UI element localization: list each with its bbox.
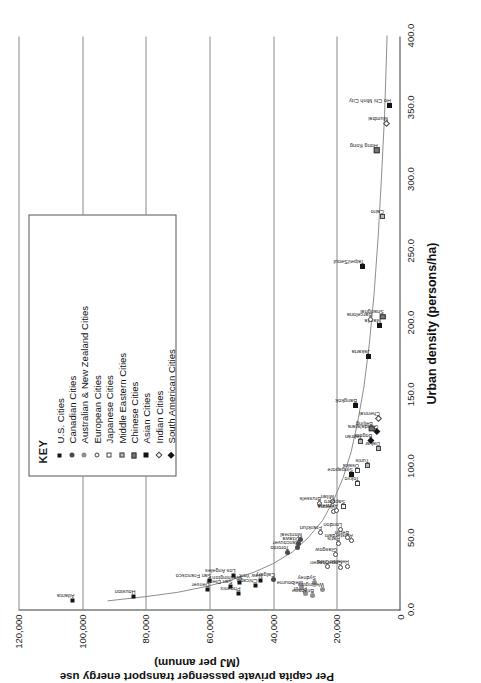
data-point[interactable]: Tokyo bbox=[355, 480, 360, 485]
data-point[interactable]: Ho Chi Minh City bbox=[386, 103, 391, 108]
legend-item-u-s-cities[interactable]: U.S. Cities bbox=[53, 225, 65, 463]
data-point[interactable]: Atlanta bbox=[70, 598, 74, 602]
data-point-label: Tunis bbox=[355, 458, 368, 464]
x-axis-tick-label: 200.0 bbox=[404, 310, 415, 334]
data-point-label: Taipei/Seoul bbox=[333, 259, 364, 265]
data-point[interactable]: Cairo bbox=[380, 213, 385, 218]
data-point[interactable]: Paris bbox=[335, 541, 340, 546]
data-point-label: Helsinki bbox=[329, 558, 349, 564]
data-point[interactable]: Barcelona bbox=[367, 317, 372, 322]
legend-item-australian-new-zealand-cities[interactable]: Australian & New Zealand Cities bbox=[78, 225, 90, 463]
data-point-label: Atlanta bbox=[57, 592, 74, 598]
legend-marker-icon bbox=[57, 447, 61, 463]
legend-item-asian-cities[interactable]: Asian Cities bbox=[140, 225, 152, 463]
data-point-label: Bogota bbox=[354, 432, 372, 438]
data-point[interactable]: Berlin bbox=[345, 535, 350, 540]
data-point[interactable]: Taipei/Seoul bbox=[359, 264, 364, 269]
data-point[interactable]: Chicago bbox=[253, 583, 257, 587]
data-point-label: Beijing bbox=[356, 421, 373, 427]
data-point[interactable]: Bangkok bbox=[353, 403, 358, 408]
legend-item-indian-cities[interactable]: Indian Cities bbox=[152, 225, 164, 463]
data-point[interactable]: San Diego bbox=[228, 584, 232, 588]
x-axis-tick-label: 300.0 bbox=[404, 167, 415, 191]
legend-item-european-cities[interactable]: European Cities bbox=[90, 225, 102, 463]
data-point[interactable]: Sapporo bbox=[340, 503, 345, 508]
data-point[interactable]: Toronto bbox=[284, 549, 289, 554]
data-point[interactable]: Helsinki bbox=[345, 563, 350, 568]
data-point-label: Calgary bbox=[255, 571, 274, 577]
data-point[interactable]: Osaka bbox=[355, 467, 360, 472]
data-point-label: Houston bbox=[114, 588, 135, 594]
data-point[interactable]: Tunis bbox=[364, 463, 369, 468]
data-point-label: Paris bbox=[327, 536, 340, 542]
legend-item-south-american-cities[interactable]: South American Cities bbox=[165, 225, 177, 463]
data-point[interactable]: Wellington bbox=[320, 586, 325, 591]
data-point-label: Barcelona bbox=[346, 312, 371, 318]
data-point[interactable]: Mumbai bbox=[383, 120, 388, 125]
data-point[interactable]: New York bbox=[258, 578, 262, 582]
y-axis-tick-label: 100,000 bbox=[76, 614, 87, 648]
y-axis-tick-label: 40,000 bbox=[267, 614, 278, 643]
legend-item-japanese-cities[interactable]: Japanese Cities bbox=[103, 225, 115, 463]
data-point[interactable]: Manila bbox=[377, 322, 382, 327]
legend-marker-icon bbox=[81, 447, 86, 463]
data-point-label: Hong Kong bbox=[350, 143, 378, 149]
x-axis-tick-label: 350.0 bbox=[404, 95, 415, 119]
data-point[interactable]: Phoenix bbox=[236, 591, 240, 595]
data-point[interactable]: Beijing bbox=[369, 425, 375, 431]
x-axis-tick-label: 100.0 bbox=[404, 454, 415, 478]
data-point[interactable]: Montreal bbox=[297, 536, 302, 541]
data-point[interactable]: Frankfurt bbox=[318, 529, 323, 534]
data-point[interactable]: Singapore bbox=[348, 472, 353, 477]
data-point[interactable]: Hong Kong bbox=[373, 147, 379, 153]
legend-label: European Cities bbox=[91, 375, 102, 443]
legend-label: Canadian Cities bbox=[66, 375, 77, 443]
x-axis-tick-label: 250.0 bbox=[404, 238, 415, 262]
data-point[interactable]: Calgary bbox=[270, 576, 275, 581]
data-point-marker bbox=[70, 598, 74, 602]
legend-label: Japanese Cities bbox=[103, 375, 114, 443]
data-point[interactable]: Copenhagen bbox=[337, 565, 342, 570]
data-point-label: Jakarta bbox=[351, 349, 369, 355]
data-point[interactable]: Jakarta bbox=[366, 354, 371, 359]
data-point-marker bbox=[236, 591, 240, 595]
data-point-label: Mumbai bbox=[367, 115, 387, 121]
data-point[interactable]: Tehran bbox=[358, 439, 363, 444]
y-axis-tick-label: 120,000 bbox=[13, 614, 24, 648]
data-point-label: Frankfurt bbox=[299, 524, 321, 530]
data-point-label: Bangkok bbox=[335, 398, 357, 404]
x-axis-label: Urban density (persons/ha) bbox=[424, 36, 438, 610]
legend-item-chinese-cities[interactable]: Chinese Cities bbox=[127, 225, 139, 463]
y-axis-tick-label: 60,000 bbox=[204, 614, 215, 643]
legend-marker-icon bbox=[143, 447, 148, 463]
data-point-label: London bbox=[322, 521, 341, 527]
data-point-label: Cairo bbox=[371, 208, 384, 214]
data-point[interactable]: Denver bbox=[205, 587, 209, 591]
data-point-marker bbox=[205, 587, 209, 591]
legend-label: Asian Cities bbox=[140, 392, 151, 443]
gridline bbox=[18, 36, 19, 609]
legend-marker-icon bbox=[156, 447, 161, 463]
data-point[interactable]: Antwerp bbox=[334, 508, 339, 513]
gridline bbox=[273, 36, 274, 609]
data-point[interactable]: Brisbane bbox=[310, 592, 315, 597]
data-point[interactable]: Houston bbox=[131, 594, 135, 598]
y-axis-tick-label: 20,000 bbox=[331, 614, 342, 643]
data-point-label: Sydney bbox=[297, 574, 316, 580]
y-axis-label-line2: (MJ per annum) bbox=[154, 656, 240, 668]
data-point-label: Los Angeles bbox=[204, 567, 234, 573]
data-point[interactable]: Bogota bbox=[368, 437, 373, 442]
data-point-label: Brisbane bbox=[292, 587, 314, 593]
legend-item-middle-eastern-cities[interactable]: Middle Eastern Cities bbox=[115, 225, 127, 463]
legend-item-canadian-cities[interactable]: Canadian Cities bbox=[65, 225, 77, 463]
gridline bbox=[209, 36, 210, 609]
data-point-label: Wellington bbox=[297, 581, 323, 587]
data-point[interactable]: Glasgow bbox=[332, 552, 337, 557]
x-axis-tick-label: 400.0 bbox=[404, 23, 415, 47]
x-axis-tick-label: 50.0 bbox=[404, 528, 415, 547]
data-point[interactable]: Chennai bbox=[375, 416, 380, 421]
legend-label: U.S. Cities bbox=[54, 398, 65, 443]
data-point[interactable]: Dakar bbox=[375, 446, 380, 451]
